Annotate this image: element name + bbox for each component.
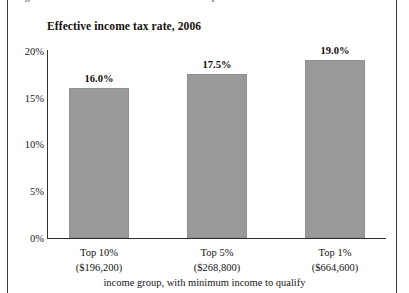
- y-tick-label: 20%: [2, 46, 44, 57]
- y-axis-ticks: 20% 15% 10% 5% 0%: [0, 0, 44, 293]
- x-category-name: Top 1%: [319, 247, 352, 258]
- bar-top-1: [305, 60, 365, 238]
- x-category-label-top-1: Top 1% ($664,600): [312, 245, 358, 275]
- x-axis-caption: income group, with minimum income to qua…: [0, 277, 409, 288]
- x-category-sublabel: ($268,800): [194, 260, 240, 275]
- y-tick-label: 0%: [2, 233, 44, 244]
- y-tick-label: 15%: [2, 93, 44, 104]
- bar-top-10: [69, 88, 129, 238]
- x-category-label-top-10: Top 10% ($196,200): [76, 245, 122, 275]
- x-category-label-top-5: Top 5% ($268,800): [194, 245, 240, 275]
- bar-top-5: [187, 74, 247, 238]
- bar-chart: Effective income tax rate, 2006 20% 15% …: [0, 0, 409, 293]
- x-axis-line: [47, 238, 386, 239]
- x-category-sublabel: ($196,200): [76, 260, 122, 275]
- y-axis-line: [47, 50, 48, 239]
- bar-value-label: 19.0%: [321, 45, 350, 56]
- x-category-sublabel: ($664,600): [312, 260, 358, 275]
- chart-title: Effective income tax rate, 2006: [47, 20, 201, 32]
- x-category-name: Top 10%: [80, 247, 118, 258]
- y-tick-label: 5%: [2, 186, 44, 197]
- bar-value-label: 16.0%: [85, 73, 114, 84]
- x-category-name: Top 5%: [201, 247, 234, 258]
- y-tick-label: 10%: [2, 139, 44, 150]
- bar-value-label: 17.5%: [203, 59, 232, 70]
